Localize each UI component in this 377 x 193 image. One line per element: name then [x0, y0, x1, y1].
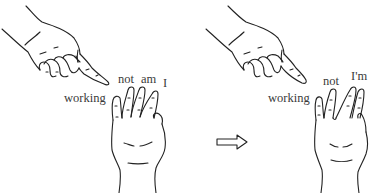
double-arrow-right-icon: [217, 135, 247, 149]
label-not-right: not: [323, 75, 339, 88]
label-working-left: working: [64, 92, 106, 105]
label-im-right: I'm: [351, 70, 367, 83]
left-open-hand-icon: [112, 87, 166, 193]
right-open-hand-icon: [315, 87, 368, 193]
figure: working not am I working not I'm: [0, 0, 377, 193]
label-working-right: working: [268, 92, 310, 105]
label-i-left: I: [163, 77, 167, 90]
right-pointing-hand-icon: [206, 6, 306, 83]
label-not-left: not: [118, 73, 134, 86]
left-pointing-hand-icon: [2, 6, 109, 85]
label-am-left: am: [141, 73, 156, 86]
illustration: [0, 0, 377, 193]
